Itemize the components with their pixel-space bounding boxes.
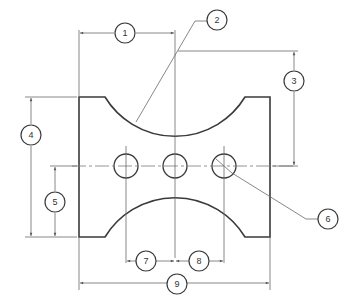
svg-text:6: 6 [325,214,330,224]
part-outline [79,97,270,237]
dimension-9: 9 [80,274,269,294]
dimension-8: 8 [176,251,223,271]
leader-6: 6 [232,173,338,229]
svg-text:9: 9 [174,279,179,289]
dimension-1: 1 [80,23,174,43]
svg-text:2: 2 [214,15,219,25]
dimension-5: 5 [45,167,65,236]
dimension-7: 7 [127,251,174,271]
svg-text:7: 7 [143,256,148,266]
svg-text:1: 1 [122,28,127,38]
technical-drawing: 1 2 3 4 5 6 7 [0,0,361,305]
dimension-4: 4 [21,98,41,236]
leader-2: 2 [136,10,227,122]
centerlines [72,30,296,263]
svg-text:5: 5 [52,197,57,207]
extension-lines [25,30,298,290]
svg-text:4: 4 [28,130,33,140]
svg-text:3: 3 [291,76,296,86]
dimension-3: 3 [284,52,304,165]
svg-text:8: 8 [196,256,201,266]
